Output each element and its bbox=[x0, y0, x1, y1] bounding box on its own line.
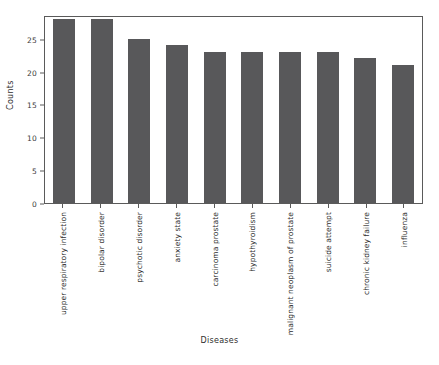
x-axis-label-slot: suicide attempt bbox=[317, 210, 339, 328]
y-axis-tick-label: 20 bbox=[27, 68, 37, 77]
x-axis-label-slot: psychotic disorder bbox=[128, 210, 150, 328]
x-axis-tick-mark bbox=[366, 204, 367, 208]
bar bbox=[204, 52, 226, 203]
y-axis-tick-label: 0 bbox=[32, 200, 37, 209]
x-axis-tick-mark bbox=[403, 204, 404, 208]
bar bbox=[317, 52, 339, 203]
x-axis-tick-mark bbox=[214, 204, 215, 208]
bar bbox=[392, 65, 414, 203]
x-axis-tick-mark bbox=[138, 204, 139, 208]
plot-area bbox=[44, 16, 423, 204]
y-axis-tick-label: 5 bbox=[32, 167, 37, 176]
x-axis-label-slot: upper respiratory infection bbox=[52, 210, 74, 328]
x-axis-label-slot: chronic kidney failure bbox=[355, 210, 377, 328]
x-axis-tick-mark bbox=[62, 204, 63, 208]
y-axis-tick-label: 15 bbox=[27, 101, 37, 110]
x-axis-tick-mark bbox=[252, 204, 253, 208]
x-axis-tick-label: anxiety state bbox=[172, 212, 181, 263]
bar bbox=[279, 52, 301, 203]
x-axis-tick-mark bbox=[290, 204, 291, 208]
y-axis-tick-group: 0510152025 bbox=[0, 16, 44, 204]
x-axis-tick-label: influenza bbox=[399, 212, 408, 247]
x-axis-tick-label: hypothyroidism bbox=[248, 212, 257, 272]
y-axis-tick-label: 25 bbox=[27, 35, 37, 44]
x-axis-label-slot: carcinoma prostate bbox=[204, 210, 226, 328]
x-axis-label-slot: influenza bbox=[393, 210, 415, 328]
bar bbox=[354, 58, 376, 203]
x-axis-tick-mark bbox=[328, 204, 329, 208]
x-axis-title: Diseases bbox=[0, 336, 439, 345]
x-axis-tick-label: upper respiratory infection bbox=[58, 212, 67, 315]
x-axis-tick-label: chronic kidney failure bbox=[362, 212, 371, 295]
bar bbox=[128, 39, 150, 203]
bar bbox=[91, 19, 113, 203]
x-axis-tick-mark bbox=[100, 204, 101, 208]
x-axis-tick-label: psychotic disorder bbox=[134, 212, 143, 283]
x-axis-label-slot: anxiety state bbox=[166, 210, 188, 328]
y-axis-tick-label: 10 bbox=[27, 134, 37, 143]
bar-chart-figure: Counts 0510152025 upper respiratory infe… bbox=[0, 0, 439, 365]
x-axis-tick-mark bbox=[176, 204, 177, 208]
x-axis-label-slot: malignant neoplasm of prostate bbox=[279, 210, 301, 328]
bar bbox=[166, 45, 188, 203]
x-axis-label-group: upper respiratory infectionbipolar disor… bbox=[44, 210, 423, 328]
bar bbox=[241, 52, 263, 203]
x-axis-tick-label: malignant neoplasm of prostate bbox=[286, 212, 295, 335]
x-axis-tick-label: carcinoma prostate bbox=[210, 212, 219, 287]
bar-series bbox=[45, 17, 422, 203]
x-axis-label-slot: bipolar disorder bbox=[90, 210, 112, 328]
x-axis-tick-label: bipolar disorder bbox=[96, 212, 105, 273]
bar bbox=[53, 19, 75, 203]
x-axis-label-slot: hypothyroidism bbox=[241, 210, 263, 328]
x-axis-tick-label: suicide attempt bbox=[324, 212, 333, 272]
